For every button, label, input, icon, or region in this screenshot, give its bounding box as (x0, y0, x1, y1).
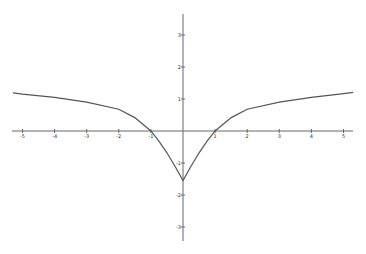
x-tick-label: 4 (310, 133, 313, 139)
y-tick-label: -2 (176, 192, 181, 198)
x-tick-label: 3 (278, 133, 281, 139)
y-tick-label: 1 (178, 96, 181, 102)
y-tick-label: 3 (178, 32, 181, 38)
y-tick-label: -1 (176, 160, 181, 166)
x-tick-label: -5 (20, 133, 25, 139)
function-plot: -5-4-3-2-112345321-1-2-3 (0, 0, 366, 254)
x-tick-label: 5 (342, 133, 345, 139)
x-tick-label: -4 (52, 133, 57, 139)
x-tick-label: -2 (116, 133, 121, 139)
y-tick-label: -3 (176, 224, 181, 230)
axes (12, 14, 353, 241)
x-tick-label: 1 (214, 133, 217, 139)
x-tick-label: 2 (246, 133, 249, 139)
x-tick-label: -3 (84, 133, 89, 139)
y-tick-label: 2 (178, 64, 181, 70)
